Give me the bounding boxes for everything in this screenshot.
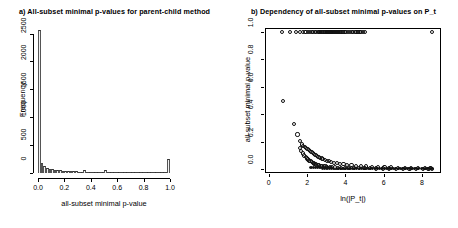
histogram-bar <box>167 159 170 173</box>
panel-a-x-tick <box>117 179 118 182</box>
data-point <box>281 99 285 103</box>
panel-b-x-tick-label: 6 <box>369 179 399 186</box>
panel-b-y-tick-label: 0.0 <box>247 154 254 180</box>
panel-b-y-tick-label: 0.4 <box>247 100 254 126</box>
histogram-bar <box>38 30 41 173</box>
panel-a-x-axis-label: all-subset minimal p-value <box>28 199 180 208</box>
panel-a-x-tick <box>144 179 145 182</box>
panel-b-x-tick-label: 8 <box>407 179 437 186</box>
panel-a-plot-area <box>38 28 170 173</box>
panel-a-y-tick <box>30 117 33 118</box>
panel-b-x-tick <box>422 174 423 177</box>
panel-a-y-tick-label: 2000 <box>20 45 27 75</box>
panel-b-x-axis-label: ln(|P_t|) <box>255 194 451 203</box>
panel-a-y-tick-label: 0 <box>20 157 27 187</box>
panel-b-y-tick <box>261 114 264 115</box>
panel-b-y-tick-label: 0.8 <box>247 45 254 71</box>
panel-a-x-tick-label: 1.0 <box>155 184 185 191</box>
panel-a-histogram: a) All-subset minimal p-values for paren… <box>0 0 229 228</box>
panel-b-plot-area <box>265 28 441 173</box>
panel-a-y-tick-label: 1500 <box>20 73 27 103</box>
panel-b-y-tick <box>261 87 264 88</box>
panel-b-x-tick <box>345 174 346 177</box>
panel-a-y-tick-label: 500 <box>20 129 27 159</box>
panel-b-x-tick-label: 4 <box>330 179 360 186</box>
panel-b-y-tick-label: 0.6 <box>247 72 254 98</box>
panel-a-x-tick <box>170 179 171 182</box>
panel-b-y-tick <box>261 59 264 60</box>
panel-a-title: a) All-subset minimal p-values for paren… <box>0 7 229 16</box>
panel-b-x-tick-label: 2 <box>292 179 322 186</box>
panel-b-y-tick-label: 1.0 <box>247 18 254 44</box>
panel-a-x-tick <box>64 179 65 182</box>
panel-a-y-tick <box>30 34 33 35</box>
panel-a-y-tick <box>30 173 33 174</box>
panel-b-x-tick <box>269 174 270 177</box>
data-point <box>430 30 434 34</box>
panel-b-y-tick <box>261 32 264 33</box>
panel-b-y-tick <box>261 169 264 170</box>
panel-b-y-tick-label: 0.2 <box>247 127 254 153</box>
panel-a-y-axis <box>33 34 34 173</box>
panel-a-x-tick <box>38 179 39 182</box>
panel-b-scatter: b) Dependency of all-subset minimal p-va… <box>229 0 458 228</box>
panel-a-y-tick-label: 2500 <box>20 17 27 47</box>
panel-b-y-tick <box>261 142 264 143</box>
panel-b-title: b) Dependency of all-subset minimal p-va… <box>229 7 458 16</box>
panel-a-y-tick <box>30 61 33 62</box>
panel-a-y-tick <box>30 145 33 146</box>
panel-a-y-tick-label: 1000 <box>20 101 27 131</box>
panel-b-x-tick <box>307 174 308 177</box>
panel-b-x-tick-label: 0 <box>254 179 284 186</box>
panel-b-x-tick <box>384 174 385 177</box>
data-point <box>295 132 299 136</box>
panel-a-x-tick <box>91 179 92 182</box>
panel-b-plot-frame <box>265 28 441 173</box>
panel-a-y-tick <box>30 89 33 90</box>
panel-a-x-axis <box>38 178 170 179</box>
data-point <box>292 122 296 126</box>
